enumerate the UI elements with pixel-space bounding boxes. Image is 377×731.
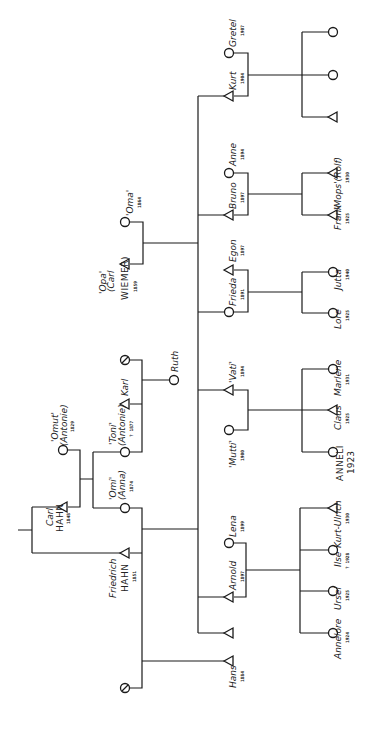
label-ruth-name: Ruth bbox=[170, 351, 180, 372]
label-jutta-name: Jutta bbox=[333, 269, 343, 292]
label-kurt-ulrich-name: Kurt-Ulrich bbox=[333, 500, 343, 548]
label-kurt-ulrich-year: 1930 bbox=[345, 513, 350, 524]
label-friedrich-surname: HAHN bbox=[120, 564, 130, 592]
male-triangle-kurt bbox=[224, 91, 233, 101]
label-mutti-name: 'Mutti' bbox=[228, 440, 238, 468]
label-karl-name: Karl bbox=[120, 378, 130, 396]
label-toni-year: ? 1877 bbox=[129, 420, 134, 437]
label-omut-alias: (Antonie) bbox=[59, 404, 69, 446]
label-vati-year: 1894 bbox=[240, 366, 245, 377]
label-arnold-year: 1897 bbox=[240, 571, 245, 582]
label-vati-name: 'Vati' bbox=[228, 361, 238, 383]
label-gretel-name: Gretel bbox=[228, 19, 238, 47]
family-tree-diagram: Carl HAHN 1848 'Omut' (Antonie) 1829 Fri… bbox=[0, 0, 377, 731]
label-frank-name: Frank bbox=[333, 204, 343, 230]
female-circle-kurt-child-1 bbox=[329, 28, 338, 37]
label-gretel-year: 1907 bbox=[240, 25, 245, 36]
female-circle-mutti bbox=[225, 426, 234, 435]
male-triangle-friedrich-hahn bbox=[120, 548, 129, 558]
label-jutta-year: 1940 bbox=[345, 269, 350, 280]
male-triangle-kurt-child-3 bbox=[328, 112, 337, 122]
female-circle-gretel bbox=[225, 49, 234, 58]
label-marlene-year: 1931 bbox=[345, 374, 350, 385]
label-opa-alias: (Carl bbox=[106, 270, 116, 292]
label-egon-name: Egon bbox=[228, 239, 238, 262]
label-bruno-year: 1897 bbox=[240, 192, 245, 203]
label-omi-alias: (Anna) bbox=[117, 470, 127, 500]
label-arnold-name: Arnold bbox=[228, 560, 238, 591]
female-circle-anne bbox=[225, 169, 234, 178]
label-omi-year: 1874 bbox=[129, 481, 134, 492]
label-ursel-name: Ursel bbox=[333, 586, 343, 610]
female-circle-lena bbox=[225, 539, 234, 548]
male-triangle-vati bbox=[224, 385, 233, 395]
label-frieda-year: 1891 bbox=[240, 289, 245, 300]
male-triangle-unnamed-son bbox=[224, 628, 233, 638]
label-carl-surname: HAHN bbox=[55, 504, 65, 532]
label-oma-name: 'Oma' bbox=[125, 190, 135, 216]
female-circle-toni bbox=[121, 448, 130, 457]
label-claus-name: Claus bbox=[333, 405, 343, 430]
label-anneli-year: 1923 bbox=[346, 451, 356, 474]
label-ilse-name: Ilse bbox=[333, 551, 343, 567]
label-mops-name: 'Mops'(Rolf) bbox=[333, 157, 343, 210]
male-triangle-egon bbox=[224, 265, 233, 275]
label-egon-year: 1897 bbox=[240, 245, 245, 256]
label-anneli-name: ANNELI bbox=[335, 445, 345, 481]
male-triangle-arnold bbox=[224, 592, 233, 602]
label-claus-year: 1925 bbox=[345, 413, 350, 424]
label-friedrich-year: 1851 bbox=[132, 571, 137, 582]
label-anne-year: 1894 bbox=[240, 149, 245, 160]
label-opa-year: 1859 bbox=[133, 281, 138, 292]
label-anne-name: Anne bbox=[228, 142, 238, 167]
label-omut-year: 1829 bbox=[70, 421, 75, 432]
male-triangle-bruno bbox=[224, 210, 233, 220]
label-carl-name: Carl bbox=[45, 508, 55, 526]
label-opa-surname: WIEMER) bbox=[120, 256, 130, 300]
label-kurt-name: Kurt bbox=[228, 71, 238, 90]
label-annelore-name: Annelore bbox=[333, 618, 343, 660]
female-circle-omi bbox=[121, 504, 130, 513]
label-toni-alias: (Antonie) bbox=[117, 404, 127, 446]
female-circle-oma bbox=[121, 218, 130, 227]
label-kurt-year: 1904 bbox=[240, 73, 245, 84]
label-hans-year: 1884 bbox=[240, 671, 245, 682]
label-frieda-name: Frieda bbox=[228, 278, 238, 306]
female-circle-ruth bbox=[170, 376, 179, 385]
person-labels: Carl HAHN 1848 'Omut' (Antonie) 1829 Fri… bbox=[45, 19, 356, 688]
label-friedrich-name: Friedrich bbox=[108, 558, 118, 598]
label-lena-year: 1899 bbox=[240, 521, 245, 532]
male-triangle-hans bbox=[224, 656, 233, 666]
label-bruno-name: Bruno bbox=[228, 182, 238, 209]
label-carl-year: 1848 bbox=[66, 513, 71, 524]
label-annelore-year: 1924 bbox=[345, 632, 350, 643]
label-ilse-year: ? 1928 bbox=[345, 552, 350, 569]
label-marlene-name: Marlene bbox=[333, 359, 343, 396]
label-ursel-year: 1925 bbox=[345, 590, 350, 601]
label-hans-name: Hans bbox=[228, 665, 238, 688]
label-frank-year: 1925 bbox=[345, 213, 350, 224]
label-lore-name: Lore bbox=[333, 309, 343, 329]
label-lena-name: Lena bbox=[228, 515, 238, 537]
label-mutti-year: 1900 bbox=[240, 450, 245, 461]
female-circle-frieda bbox=[225, 308, 234, 317]
female-circle-kurt-child-2 bbox=[329, 71, 338, 80]
label-oma-year: 1864 bbox=[137, 197, 142, 208]
label-lore-year: 1925 bbox=[345, 310, 350, 321]
label-mops-year: 1930 bbox=[345, 172, 350, 183]
